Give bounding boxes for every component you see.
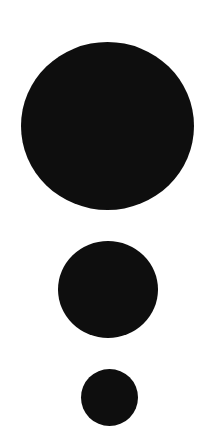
small-circle xyxy=(81,369,138,426)
medium-circle xyxy=(58,241,158,338)
canvas xyxy=(0,0,212,443)
large-circle xyxy=(21,42,194,210)
